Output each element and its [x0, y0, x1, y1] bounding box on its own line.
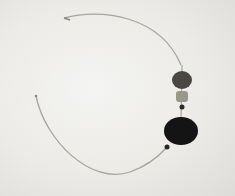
wire-lower: [36, 96, 167, 174]
small-dark-bead-lower: [165, 145, 170, 150]
light-cylinder-bead: [176, 91, 188, 102]
large-black-disc-pendant: [164, 117, 198, 145]
necklace-photo: [0, 0, 235, 196]
wire-upper: [64, 14, 181, 65]
small-dark-bead-upper: [180, 105, 185, 110]
necklace-illustration: [0, 0, 235, 196]
large-dark-round-bead: [172, 71, 192, 89]
wire-hook-end: [64, 18, 70, 20]
wire-end-knob: [35, 95, 38, 98]
